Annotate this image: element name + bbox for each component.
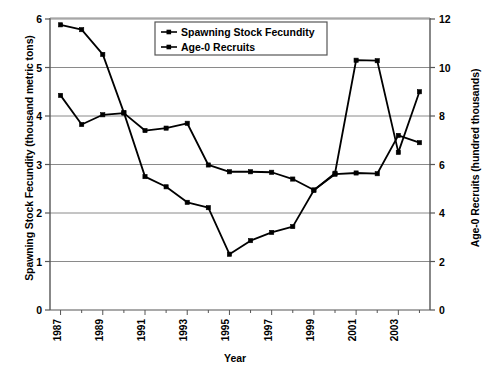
y-tick-label-left: 0 xyxy=(36,304,42,316)
legend-marker-0 xyxy=(167,30,172,35)
data-point xyxy=(396,133,400,137)
y-tick-label-right: 6 xyxy=(439,159,445,171)
legend-label: Spawning Stock Fecundity xyxy=(181,26,315,38)
data-point xyxy=(58,93,62,97)
data-point xyxy=(375,59,379,63)
x-tick-label: 2001 xyxy=(347,319,358,342)
series-line-0 xyxy=(61,25,420,254)
data-point xyxy=(164,126,168,130)
y-axis-right-ticks: 024681012 xyxy=(430,13,451,316)
y-tick-label-right: 0 xyxy=(439,304,445,316)
legend-marker-1 xyxy=(167,45,172,50)
y-tick-label-right: 2 xyxy=(439,256,445,268)
data-point xyxy=(80,28,84,32)
y-tick-label-right: 10 xyxy=(439,62,451,74)
data-point xyxy=(270,170,274,174)
x-tick-label: 1999 xyxy=(305,319,316,342)
data-point xyxy=(101,113,105,117)
data-point xyxy=(354,58,358,62)
data-point xyxy=(122,111,126,115)
series-line-1 xyxy=(61,95,420,190)
data-point xyxy=(417,90,421,94)
x-axis-title: Year xyxy=(0,352,470,364)
data-point xyxy=(164,185,168,189)
chart-plot-area: 0123456 024681012 1987198919911993199519… xyxy=(0,0,494,376)
x-axis-ticks: 198719891991199319951997199920012003 xyxy=(52,310,420,341)
data-point xyxy=(396,150,400,154)
data-point xyxy=(206,206,210,210)
y-tick-label-left: 4 xyxy=(36,110,42,122)
x-tick-label: 1991 xyxy=(136,319,147,342)
data-point xyxy=(270,230,274,234)
data-point xyxy=(185,200,189,204)
y-tick-label-left: 6 xyxy=(36,13,42,25)
x-tick-label: 1997 xyxy=(263,319,274,342)
data-point xyxy=(58,23,62,27)
y-tick-label-right: 4 xyxy=(439,207,445,219)
legend-label: Age-0 Recruits xyxy=(181,41,255,53)
data-series-layer xyxy=(58,23,421,257)
y-axis-right-title: Age-0 Recruits (hundred thousands) xyxy=(469,33,481,283)
data-point xyxy=(312,188,316,192)
y-tick-label-right: 12 xyxy=(439,13,451,25)
data-point xyxy=(206,163,210,167)
data-point xyxy=(143,128,147,132)
y-tick-label-left: 3 xyxy=(36,159,42,171)
data-point xyxy=(248,239,252,243)
x-tick-label: 2003 xyxy=(389,319,400,342)
x-tick-label: 1993 xyxy=(178,319,189,342)
data-point xyxy=(227,170,231,174)
data-point xyxy=(333,172,337,176)
x-tick-label: 1995 xyxy=(220,319,231,342)
x-tick-label: 1989 xyxy=(94,319,105,342)
data-point xyxy=(291,224,295,228)
x-tick-label: 1987 xyxy=(52,319,63,342)
data-point xyxy=(291,177,295,181)
chart-legend: Spawning Stock FecundityAge-0 Recruits xyxy=(155,22,327,55)
data-point xyxy=(143,175,147,179)
y-axis-left-title: Spawning Stock Fecundity (thousand metri… xyxy=(23,33,35,283)
data-point xyxy=(80,122,84,126)
y-tick-label-right: 8 xyxy=(439,110,445,122)
y-tick-label-left: 2 xyxy=(36,207,42,219)
data-point xyxy=(248,170,252,174)
data-point xyxy=(354,171,358,175)
y-tick-label-left: 5 xyxy=(36,62,42,74)
data-point xyxy=(101,52,105,56)
data-point xyxy=(227,252,231,256)
y-axis-left-ticks: 0123456 xyxy=(36,13,50,316)
chart-figure: Spawning Stock Fecundity (thousand metri… xyxy=(0,0,494,376)
data-point xyxy=(185,121,189,125)
data-point xyxy=(375,172,379,176)
y-tick-label-left: 1 xyxy=(36,256,42,268)
data-point xyxy=(417,141,421,145)
